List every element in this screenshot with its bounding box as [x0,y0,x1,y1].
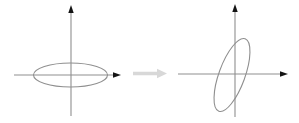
transform-right-arrow-icon [133,69,167,79]
left-x-axis-arrowhead-icon [113,72,121,77]
diagram-canvas [0,0,299,123]
right-tilted-ellipse [207,34,258,115]
ellipse-transformation-diagram [0,0,299,123]
right-coordinate-system [178,4,288,117]
left-coordinate-system [14,5,121,116]
right-y-axis-arrowhead-icon [232,4,237,12]
left-y-axis-arrowhead-icon [68,5,73,13]
right-x-axis-arrowhead-icon [280,71,288,76]
